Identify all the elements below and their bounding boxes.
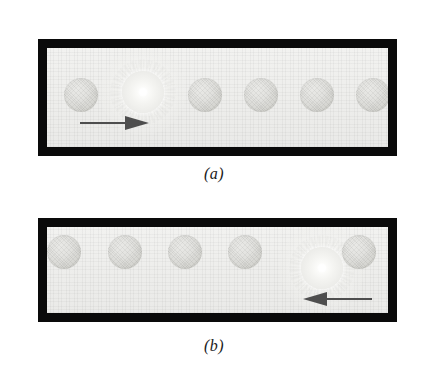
sphere-ground-state	[108, 235, 142, 269]
panel-a-caption: (a)	[0, 165, 428, 183]
panel-b-frame	[38, 218, 397, 322]
sphere-ground-state	[356, 78, 388, 112]
panel-b-interior	[47, 227, 388, 313]
sphere-ground-state	[168, 235, 202, 269]
arrow-left-icon	[301, 289, 373, 309]
excitation-core-highlight	[318, 264, 327, 273]
figure-root: (a)	[0, 0, 428, 371]
sphere-ground-state	[188, 78, 222, 112]
sphere-ground-state	[64, 78, 98, 112]
sphere-ground-state	[228, 235, 262, 269]
panel-a-frame	[38, 39, 397, 156]
panel-b-caption: (b)	[0, 337, 428, 355]
panel-a-interior	[47, 48, 388, 147]
sphere-ground-state	[342, 235, 376, 269]
excitation-core-highlight	[139, 88, 148, 97]
arrow-right-icon	[79, 113, 151, 133]
sphere-ground-state	[244, 78, 278, 112]
sphere-ground-state	[300, 78, 334, 112]
sphere-ground-state	[47, 235, 81, 269]
